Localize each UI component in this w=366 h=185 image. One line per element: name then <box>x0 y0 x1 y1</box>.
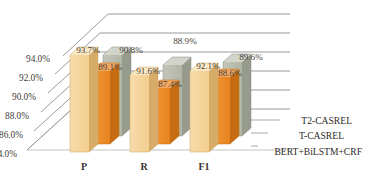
y-tick-label: 84.0% <box>0 149 17 159</box>
value-label: 90.8% <box>119 45 143 55</box>
legend-item-t-casrel: T-CASREL <box>299 130 344 141</box>
chart-canvas: 94.0% 92.0% 90.0% 88.0% 86.0% 84.0% <box>0 0 366 185</box>
value-label: 88.6% <box>218 68 242 78</box>
legend-item-bert-bilstm-crf: BERT+BiLSTM+CRF <box>274 146 362 157</box>
bar-r-t2-casrel <box>130 67 158 152</box>
value-label: 91.6% <box>136 66 160 76</box>
bar-chart-3d: 94.0% 92.0% 90.0% 88.0% 86.0% 84.0% <box>0 0 366 185</box>
value-label: 87.4% <box>158 79 182 89</box>
y-tick-label: 88.0% <box>5 111 29 121</box>
bar-p-t2-casrel <box>70 47 98 152</box>
y-tick-label: 90.0% <box>12 92 36 102</box>
y-tick-label: 92.0% <box>19 73 43 83</box>
value-label: 89.1% <box>98 62 122 72</box>
legend-item-t2-casrel: T2-CASREL <box>301 115 352 126</box>
value-label: 88.9% <box>173 36 197 46</box>
y-tick-label: 94.0% <box>26 54 50 64</box>
value-label: 93.7% <box>76 45 100 55</box>
y-tick-label: 86.0% <box>0 130 23 140</box>
x-tick-label: R <box>140 161 148 172</box>
x-tick-label: P <box>81 161 87 172</box>
value-label: 89.6% <box>239 52 263 62</box>
bar-f1-t2-casrel <box>190 63 218 152</box>
x-tick-label: F1 <box>198 161 209 172</box>
value-label: 92.1% <box>196 61 220 71</box>
